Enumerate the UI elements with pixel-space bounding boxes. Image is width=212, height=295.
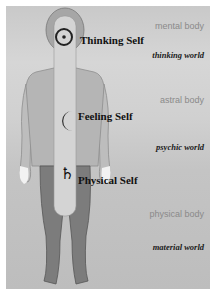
physical-self-label: Physical Self <box>78 174 138 186</box>
thinking-self-label: Thinking Self <box>80 34 144 46</box>
saturn-icon: ♄ <box>60 164 74 183</box>
thinking-world-label: thinking world <box>152 50 204 60</box>
material-world-label: material world <box>153 242 204 252</box>
feeling-self-label: Feeling Self <box>78 110 133 122</box>
physical-body-label: physical body <box>149 209 204 219</box>
psychic-world-label: psychic world <box>156 142 204 152</box>
astral-body-label: astral body <box>160 95 204 105</box>
mental-body-label: mental body <box>155 21 204 31</box>
diagram-frame: ♄ Thinking Self Feeling Self Physical Se… <box>6 6 210 289</box>
